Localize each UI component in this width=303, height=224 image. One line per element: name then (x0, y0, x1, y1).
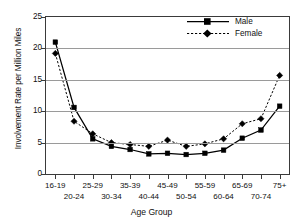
x-tick-mark (168, 175, 169, 179)
legend-swatch-female (186, 28, 230, 39)
data-point-male (259, 128, 264, 133)
data-point-male (221, 148, 226, 153)
x-tick-mark (74, 175, 75, 179)
gridline (46, 143, 289, 144)
data-point-male (240, 136, 245, 141)
legend-item-female: Female (186, 28, 278, 39)
x-tick-mark (261, 175, 262, 179)
gridline (46, 48, 289, 49)
x-tick-mark (242, 175, 243, 179)
legend-label-female: Female (235, 29, 262, 38)
y-tick-label: 25 (24, 13, 42, 21)
data-point-male (165, 151, 170, 156)
x-tick-label: 75+ (257, 182, 303, 190)
legend-swatch-male (186, 16, 230, 27)
data-point-female (183, 143, 189, 149)
data-point-male (72, 105, 77, 110)
data-point-female (258, 116, 264, 122)
x-axis-title: Age Group (0, 207, 303, 217)
y-axis-title: Involvement Rate per Million Miles (14, 4, 23, 174)
x-tick-mark (130, 175, 131, 179)
chart-figure: Involvement Rate per Million Miles Age G… (0, 0, 303, 224)
data-point-female (277, 72, 283, 78)
x-tick-mark (149, 175, 150, 179)
y-tick-label: 5 (24, 139, 42, 147)
x-tick-mark (55, 175, 56, 179)
y-tick-label: 15 (24, 76, 42, 84)
x-tick-label: 70-74 (238, 193, 284, 201)
gridline (46, 111, 289, 112)
chart-legend: Male Female (186, 16, 278, 42)
y-tick-label: 0 (24, 170, 42, 178)
data-point-female (71, 118, 77, 124)
y-tick-label: 10 (24, 107, 42, 115)
x-tick-mark (93, 175, 94, 179)
x-tick-mark (186, 175, 187, 179)
data-point-male (277, 104, 282, 109)
y-tick-label: 20 (24, 44, 42, 52)
x-tick-mark (205, 175, 206, 179)
data-point-female (146, 143, 152, 149)
data-point-male (203, 151, 208, 156)
x-tick-mark (111, 175, 112, 179)
x-tick-mark (280, 175, 281, 179)
data-point-male (184, 152, 189, 157)
data-point-female (220, 136, 226, 142)
data-point-male (147, 152, 152, 157)
data-point-male (53, 40, 58, 45)
legend-label-male: Male (235, 17, 253, 26)
x-tick-mark (224, 175, 225, 179)
legend-item-male: Male (186, 16, 278, 27)
gridline (46, 80, 289, 81)
